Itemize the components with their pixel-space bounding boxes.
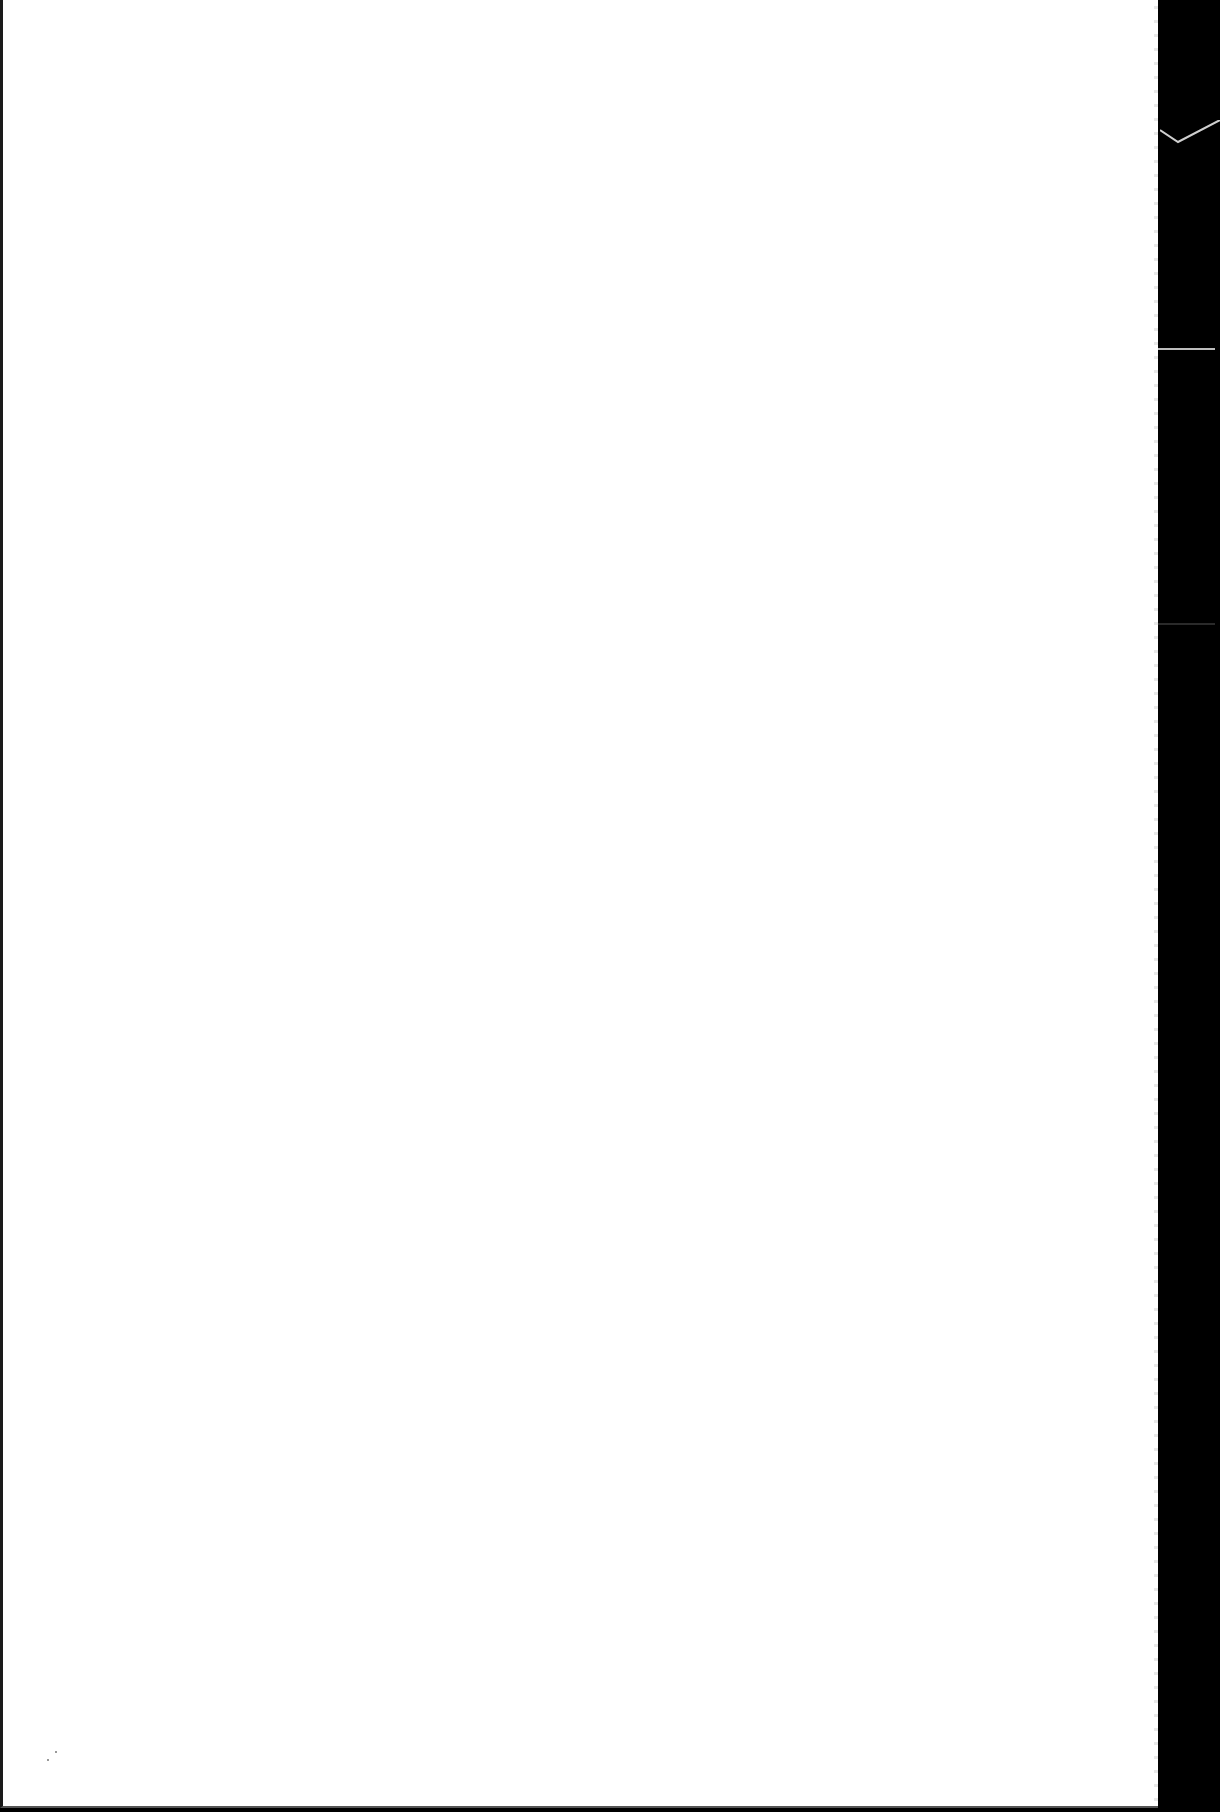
scanner-backdrop	[1158, 0, 1215, 1812]
backdrop-line	[1158, 623, 1215, 625]
paper-crease-mark	[1160, 120, 1220, 160]
blank-scanned-page	[0, 0, 1158, 1808]
speck	[47, 1759, 49, 1761]
backdrop-line	[1158, 348, 1215, 350]
dust-specks	[43, 1745, 63, 1765]
speck	[55, 1751, 57, 1753]
